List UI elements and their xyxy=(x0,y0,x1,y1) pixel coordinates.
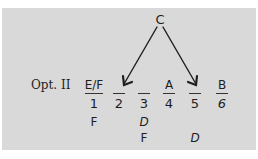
slot-1-line xyxy=(85,93,103,94)
slot-4-line xyxy=(163,93,175,94)
slot-2-number: 2 xyxy=(115,97,123,110)
slot-3-number: 3 xyxy=(140,97,148,110)
slot-2-line xyxy=(113,93,125,94)
slot-1-top: E/F xyxy=(85,79,104,92)
slot-4-top: A xyxy=(165,79,173,92)
slot-3-line xyxy=(138,93,150,94)
slot-4-number: 4 xyxy=(165,97,173,110)
source-letter: C xyxy=(155,13,164,26)
slot-6-line xyxy=(216,93,228,94)
slot-3-below-2: F xyxy=(141,132,148,145)
slot-1-below-1: F xyxy=(91,116,98,129)
slot-3-below-1: D xyxy=(139,116,148,129)
slot-1-number: 1 xyxy=(90,97,98,110)
slot-6-number: 6 xyxy=(218,97,226,110)
arrow-to-slot-5 xyxy=(163,27,196,84)
slot-5-line xyxy=(189,93,201,94)
slot-5-below-2: D xyxy=(190,132,199,145)
option-label: Opt. II xyxy=(31,79,70,92)
slot-6-top: B xyxy=(218,79,226,92)
slot-5-number: 5 xyxy=(191,97,199,110)
arrow-to-slot-2 xyxy=(124,27,157,84)
